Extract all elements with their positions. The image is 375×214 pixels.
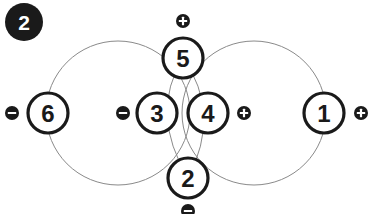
node-6[interactable]: 6 (28, 93, 68, 133)
node-6-ring (28, 93, 68, 133)
badge-minus-center-icon[interactable]: − (116, 106, 130, 120)
badge-plus-far-right-icon[interactable]: + (354, 106, 368, 120)
badge-plus-center-bar-v (243, 109, 245, 117)
step-number-disc (5, 3, 43, 41)
node-4-ring (188, 93, 228, 133)
badge-minus-bottom-icon[interactable]: − (181, 204, 195, 214)
badge-minus-far-left-icon[interactable]: − (5, 106, 19, 120)
node-3[interactable]: 3 (137, 93, 177, 133)
node-5-ring (163, 38, 203, 78)
node-4[interactable]: 4 (188, 93, 228, 133)
node-1-ring (304, 93, 344, 133)
badge-minus-far-left-bar-h (8, 112, 16, 114)
node-5[interactable]: 5 (163, 38, 203, 78)
badge-plus-center-icon[interactable]: + (237, 106, 251, 120)
diagram-svg: 634152 −−+++− 2 (0, 0, 375, 214)
badge-plus-far-right-bar-v (360, 109, 362, 117)
badge-minus-bottom-bar-h (184, 210, 192, 212)
diagram-canvas: 634152 −−+++− 2 (0, 0, 375, 214)
badge-plus-top-bar-v (182, 17, 184, 25)
node-2-ring (168, 158, 208, 198)
badge-minus-bottom-disc (181, 204, 195, 214)
step-number: 2 (5, 3, 43, 41)
badge-plus-top-icon[interactable]: + (176, 14, 190, 28)
node-3-ring (137, 93, 177, 133)
node-2[interactable]: 2 (168, 158, 208, 198)
badge-minus-center-bar-h (119, 112, 127, 114)
node-group: 634152 (28, 38, 344, 198)
node-1[interactable]: 1 (304, 93, 344, 133)
